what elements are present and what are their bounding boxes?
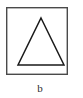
figure-panel: b: [0, 0, 83, 98]
figure-caption: b: [0, 82, 80, 94]
